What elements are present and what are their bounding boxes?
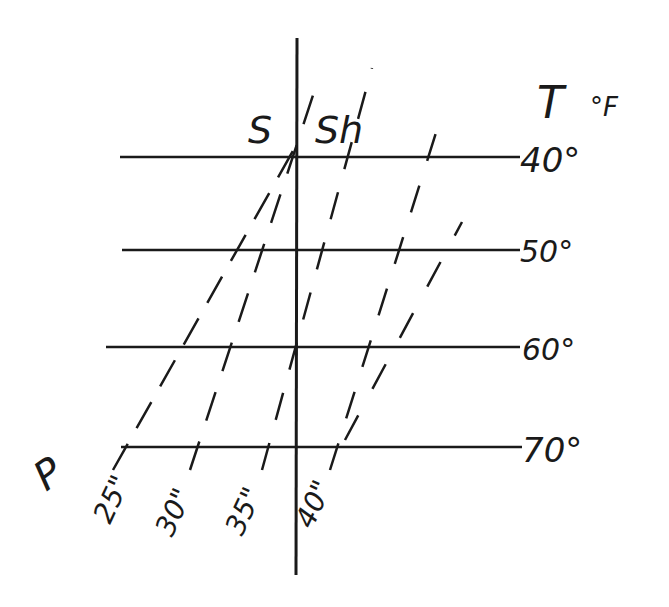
- vertical-divider: [296, 38, 297, 575]
- pressure-label-35: 35": [218, 482, 268, 540]
- nomogram: T °F S Sh 40° 50° 60° 70° P 25" 30" 35" …: [0, 0, 669, 607]
- pressure-axis-label: P: [25, 447, 72, 499]
- region-right-label: Sh: [315, 108, 363, 152]
- temp-label-40: 40°: [520, 140, 580, 180]
- pressure-line-40: [330, 120, 440, 470]
- region-left-label: S: [248, 108, 272, 152]
- temp-label-50: 50°: [520, 234, 573, 269]
- pressure-line-45: [345, 222, 462, 440]
- pressure-label-30: 30": [148, 483, 198, 541]
- axis-title: T: [537, 77, 567, 128]
- axis-unit: °F: [590, 92, 619, 122]
- pressure-line-25: [113, 142, 298, 470]
- temp-label-60: 60°: [522, 332, 575, 367]
- pressure-label-25: 25": [86, 470, 136, 528]
- temp-label-70: 70°: [522, 430, 582, 470]
